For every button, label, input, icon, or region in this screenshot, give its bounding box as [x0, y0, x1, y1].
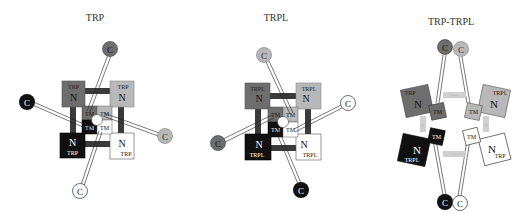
svg-text:TRP: TRP: [67, 150, 79, 156]
svg-text:TRP: TRP: [68, 84, 80, 90]
svg-text:TM: TM: [432, 134, 442, 140]
n-domain-dark-gray: TRPL N: [245, 83, 270, 109]
svg-text:C: C: [298, 186, 304, 196]
svg-text:C: C: [442, 198, 448, 208]
svg-text:N: N: [414, 98, 422, 110]
c-domain-white: C: [73, 184, 88, 199]
svg-text:TM: TM: [271, 112, 281, 118]
svg-text:TRPL: TRPL: [250, 86, 265, 92]
svg-text:N: N: [255, 139, 262, 150]
svg-text:N: N: [300, 139, 307, 150]
subunit-trp-bottom-right: N TRP TM: [463, 127, 511, 165]
svg-text:TRP: TRP: [494, 153, 506, 159]
subunit-trp-top-left: TRP N TM: [400, 84, 446, 120]
svg-text:C: C: [442, 43, 448, 53]
n-domain-black: N TRP: [60, 133, 85, 158]
svg-text:N: N: [413, 144, 421, 156]
tm-core: TM TM TM TM: [268, 107, 298, 137]
svg-text:N: N: [302, 93, 309, 104]
svg-text:N: N: [70, 92, 77, 103]
panel-trpl: TRPL TRPL N TRPL N N TRPL N TRPL: [211, 12, 356, 198]
svg-text:TM: TM: [271, 127, 281, 133]
svg-text:C: C: [261, 51, 267, 61]
c-domain-white-bottom: C: [453, 196, 468, 211]
diagram-stage: TRP TRP N TRP N N TRP N TRP: [0, 0, 523, 223]
svg-text:TM: TM: [467, 134, 477, 140]
svg-text:C: C: [24, 98, 30, 108]
svg-text:N: N: [118, 92, 125, 103]
c-domain-black: C: [293, 182, 309, 198]
svg-text:TRPL: TRPL: [250, 152, 265, 158]
svg-text:C: C: [457, 199, 463, 209]
svg-text:TM: TM: [100, 125, 110, 131]
svg-text::: :: [422, 122, 423, 127]
n-domain-white: N TRP: [110, 133, 134, 159]
svg-text:N: N: [69, 137, 76, 148]
c-domain-dark-gray-top: C: [438, 40, 453, 55]
svg-text:TRP: TRP: [120, 151, 132, 157]
svg-text:TRP: TRP: [117, 84, 129, 90]
svg-text:C: C: [345, 99, 351, 109]
svg-text:TM: TM: [433, 109, 443, 115]
svg-text:C: C: [458, 45, 464, 55]
panel-title-trpl: TRPL: [264, 12, 288, 23]
c-domain-light-gray: C: [257, 48, 272, 63]
n-domain-dark-gray: TRP N: [62, 81, 85, 107]
c-tails: [433, 55, 470, 196]
n-domain-light-gray: TRPL N: [296, 83, 321, 109]
pore-icon: [92, 115, 103, 126]
svg-text:TM: TM: [469, 109, 479, 115]
svg-text:TM: TM: [286, 112, 296, 118]
panel-trp: TRP TRP N TRP N N TRP N TRP: [19, 12, 173, 199]
svg-text:C: C: [215, 139, 221, 149]
panel-title-trp-trpl: TRP-TRPL: [428, 16, 474, 27]
svg-text:TRPL: TRPL: [493, 90, 508, 96]
panel-title-trp: TRP: [86, 12, 105, 23]
n-domain-black: N TRPL: [245, 134, 271, 160]
svg-text:C: C: [77, 187, 83, 197]
tm-core: TM TM TM TM: [82, 106, 112, 134]
svg-text:N: N: [118, 138, 125, 149]
c-domain-black: C: [19, 94, 35, 110]
pore-icon: [278, 117, 289, 128]
svg-text:TRP: TRP: [404, 90, 416, 96]
svg-text:TRPL: TRPL: [302, 86, 317, 92]
c-domain-dark-gray: C: [103, 42, 118, 57]
svg-text:N: N: [490, 98, 498, 110]
subunit-trpl-top-right: TRPL N TM: [464, 84, 510, 120]
c-domain-black-bottom: C: [437, 194, 453, 210]
svg-text:TM: TM: [286, 127, 296, 133]
svg-text:TRPL: TRPL: [405, 157, 420, 163]
c-domain-light-gray-top: C: [454, 42, 469, 57]
n-domain-white: N TRPL: [296, 134, 321, 160]
n-domain-light-gray: TRP N: [110, 81, 134, 107]
svg-text:N: N: [255, 93, 262, 104]
svg-text:C: C: [162, 132, 168, 142]
c-domain-dark-gray: C: [211, 136, 226, 151]
panel-trp-trpl: TRP-TRPL - - - - - : : TRP N TM: [397, 16, 511, 211]
c-domain-white: C: [341, 96, 356, 111]
svg-text:- - -: - - -: [451, 93, 459, 98]
svg-text:C: C: [107, 45, 113, 55]
svg-text:TRPL: TRPL: [303, 152, 318, 158]
subunit-trpl-bottom-left: N TRPL TM: [397, 128, 445, 167]
svg-text:- -: - -: [452, 152, 457, 157]
svg-text::: :: [485, 122, 486, 127]
c-domain-light-gray: C: [158, 129, 173, 144]
svg-text:TM: TM: [85, 111, 95, 117]
